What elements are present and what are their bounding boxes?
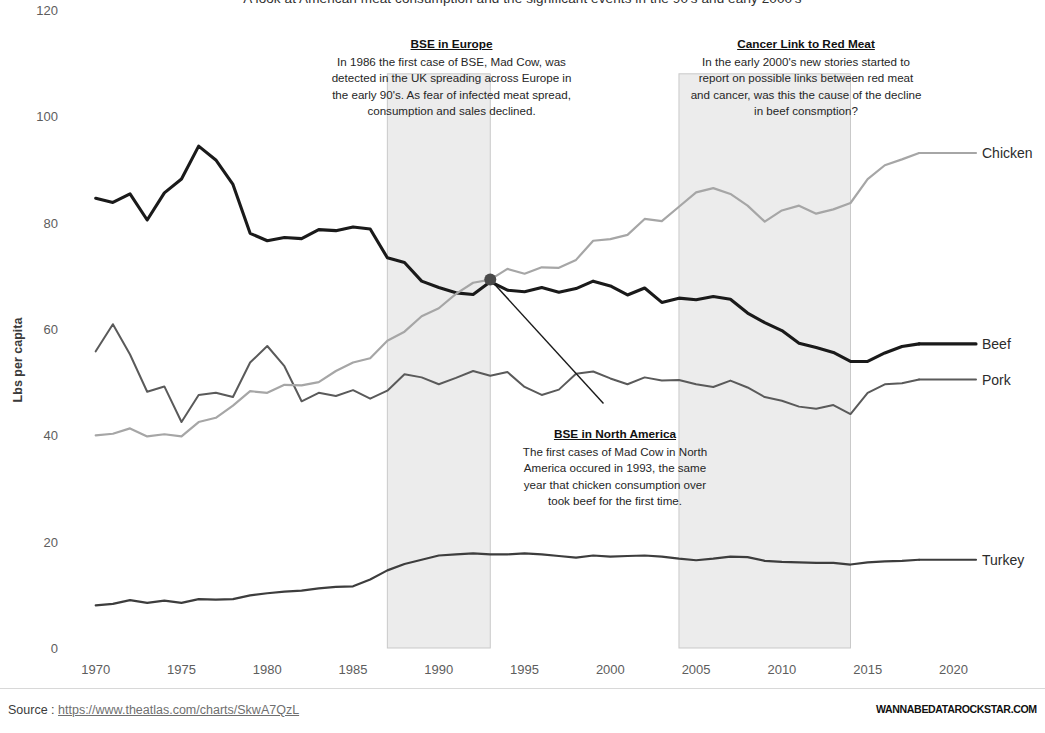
source-link[interactable]: https://www.theatlas.com/charts/SkwA7QzL	[58, 703, 299, 717]
annotation-title: BSE in North America	[520, 426, 710, 443]
x-tick-label: 1975	[167, 662, 196, 677]
x-tick-label: 1970	[81, 662, 110, 677]
source-prefix: Source :	[8, 703, 58, 717]
source-note: Source : https://www.theatlas.com/charts…	[8, 703, 299, 717]
y-tick-label: 40	[44, 428, 58, 443]
series-label-turkey: Turkey	[982, 552, 1024, 568]
footer: Source : https://www.theatlas.com/charts…	[0, 688, 1045, 733]
annotation-title: BSE in Europe	[330, 36, 573, 53]
data-point-markers	[484, 274, 496, 286]
x-axis-ticks: 1970197519801985199019952000200520102015…	[81, 662, 968, 677]
annotation-cancer-link: Cancer Link to Red Meat In the early 200…	[690, 36, 922, 120]
annotation-body: In the early 2000's new stories started …	[690, 54, 922, 120]
chart-page: A look at American meat consumption and …	[0, 0, 1045, 733]
annotation-leader-line	[490, 280, 603, 404]
leader-lines	[490, 280, 603, 404]
x-tick-label: 2015	[853, 662, 882, 677]
y-tick-label: 60	[44, 322, 58, 337]
x-tick-label: 2010	[767, 662, 796, 677]
x-tick-label: 1995	[510, 662, 539, 677]
series-label-pork: Pork	[982, 372, 1012, 388]
shaded-band	[387, 74, 490, 648]
x-tick-label: 2000	[596, 662, 625, 677]
y-tick-label: 80	[44, 216, 58, 231]
series-label-beef: Beef	[982, 336, 1011, 352]
crossover-marker	[484, 274, 496, 286]
x-tick-label: 2020	[939, 662, 968, 677]
y-tick-label: 120	[36, 3, 58, 18]
y-tick-label: 0	[51, 641, 58, 656]
series-label-chicken: Chicken	[982, 145, 1033, 161]
y-tick-label: 20	[44, 535, 58, 550]
annotation-bse-europe: BSE in Europe In 1986 the first case of …	[330, 36, 573, 120]
y-axis-label: Lbs per capita	[11, 317, 25, 403]
annotation-body: In 1986 the first case of BSE, Mad Cow, …	[330, 54, 573, 120]
annotation-bse-north-america: BSE in North America The first cases of …	[520, 426, 710, 510]
x-tick-label: 1980	[253, 662, 282, 677]
x-tick-label: 1985	[339, 662, 368, 677]
annotation-body: The first cases of Mad Cow in North Amer…	[520, 444, 710, 510]
y-axis-ticks: 020406080100120	[36, 3, 58, 656]
series-labels: BeefPorkChickenTurkey	[982, 145, 1033, 568]
x-tick-label: 1990	[424, 662, 453, 677]
annotation-title: Cancer Link to Red Meat	[690, 36, 922, 53]
x-tick-label: 2005	[682, 662, 711, 677]
y-tick-label: 100	[36, 109, 58, 124]
watermark: WANNABEDATAROCKSTAR.COM	[876, 703, 1037, 715]
